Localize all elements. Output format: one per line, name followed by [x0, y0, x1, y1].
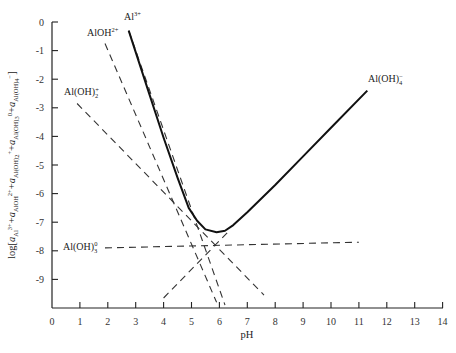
x-tick-label: 9 [301, 316, 306, 327]
label-aloh2: Al(OH)2+ [64, 86, 99, 99]
y-tick-label: -3 [36, 102, 44, 113]
series-total-solubility [129, 31, 368, 233]
x-tick-label: 13 [410, 316, 420, 327]
x-ticks: 01234567891011121314 [50, 302, 448, 327]
x-tick-label: 12 [382, 316, 392, 327]
series-al-oh-3-0 [105, 242, 359, 248]
x-tick-label: 5 [189, 316, 194, 327]
x-tick-label: 1 [77, 316, 82, 327]
x-tick-label: 8 [273, 316, 278, 327]
x-tick-label: 6 [217, 316, 222, 327]
axes [52, 22, 443, 308]
series-aloh2- [105, 44, 217, 303]
series-al3- [129, 31, 225, 306]
series-al-oh-2- [77, 104, 264, 296]
label-al3: Al3+ [124, 10, 141, 22]
y-tick-label: -5 [36, 160, 44, 171]
y-tick-label: -4 [36, 131, 44, 142]
y-tick-label: -6 [36, 188, 44, 199]
series-al-oh-4--dashed [164, 232, 228, 298]
x-tick-label: 3 [133, 316, 138, 327]
y-tick-label: -9 [36, 274, 44, 285]
x-tick-label: 7 [245, 316, 250, 327]
y-tick-label: -1 [36, 45, 44, 56]
label-aloh4: Al(OH)4− [368, 73, 403, 86]
label-aloh3: Al(OH)30 [63, 240, 98, 254]
y-tick-label: -2 [36, 74, 44, 85]
y-ticks: 0-1-2-3-4-5-6-7-8-9 [36, 17, 58, 285]
x-tick-label: 14 [438, 316, 448, 327]
svg-text:log[aAl3++aAlOH2++aAl(OH)2++aA: log[aAl3++aAlOH2++aAl(OH)2++aAl(OH)30+aA… [6, 71, 20, 259]
y-axis-title: log[aAl3++aAlOH2++aAl(OH)2++aAl(OH)30+aA… [6, 71, 20, 259]
y-tick-label: -8 [36, 245, 44, 256]
y-tick-label: -7 [36, 217, 44, 228]
solubility-chart: 01234567891011121314 0-1-2-3-4-5-6-7-8-9… [0, 0, 456, 353]
x-tick-label: 10 [326, 316, 336, 327]
label-aloh: AlOH2+ [87, 26, 119, 38]
x-tick-label: 2 [105, 316, 110, 327]
series-lines [77, 31, 367, 306]
x-axis-title: pH [241, 329, 254, 340]
x-tick-label: 11 [354, 316, 364, 327]
x-tick-label: 0 [50, 316, 55, 327]
x-tick-label: 4 [161, 316, 166, 327]
y-tick-label: 0 [39, 17, 44, 28]
